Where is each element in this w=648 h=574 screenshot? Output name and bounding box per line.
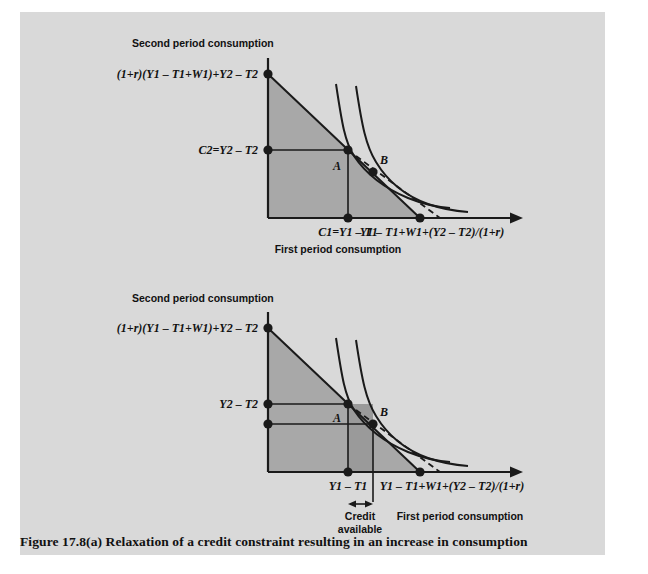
x-intercept-dot-bottom	[415, 467, 424, 476]
credit-available-band	[348, 404, 373, 472]
x-axis-title-bottom: First period consumption	[397, 510, 524, 522]
x-second-tick-label-bottom: Y1 – T1+W1+(Y2 – T2)/(1+r)	[380, 479, 525, 493]
figure-panel: Second period consumption (1+r)(Y1 – T1+…	[20, 12, 605, 555]
bottom-chart: Second period consumption (1+r)(Y1 – T1+…	[20, 12, 605, 555]
y-axis-title-bottom: Second period consumption	[132, 292, 274, 304]
x-axis-arrow-bottom	[510, 467, 523, 478]
credit-arrow-right-head	[365, 501, 373, 508]
figure-caption-text: Figure 17.8(a) Relaxation of a credit co…	[20, 534, 528, 549]
y-intercept-dot-bottom	[263, 323, 272, 332]
y2t2-dot-bottom	[263, 399, 272, 408]
b-level-dot-bottom	[263, 419, 272, 428]
point-a-dot-bottom	[343, 399, 352, 408]
point-b-label-bottom: B	[379, 405, 388, 419]
y-top-tick-label-bottom: (1+r)(Y1 – T1+W1)+Y2 – T2	[117, 321, 258, 335]
figure-caption: Figure 17.8(a) Relaxation of a credit co…	[20, 534, 605, 550]
y1t1-dot-bottom	[343, 467, 352, 476]
credit-available-line1: Credit	[345, 510, 376, 522]
point-b-dot-bottom	[368, 419, 377, 428]
credit-arrow-left-head	[348, 501, 356, 508]
x-first-tick-label-bottom: Y1 – T1	[329, 479, 368, 493]
y-mid-tick-label-bottom: Y2 – T2	[219, 397, 258, 411]
point-a-label-bottom: A	[332, 411, 341, 425]
